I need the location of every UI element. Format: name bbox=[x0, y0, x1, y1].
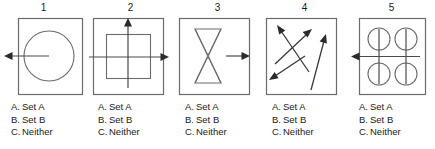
option-label-b-1: Set B bbox=[22, 114, 45, 125]
option-b-5[interactable]: B.Set B bbox=[359, 114, 435, 127]
option-label-c-3: Neither bbox=[196, 126, 227, 137]
option-letter-b-3: B. bbox=[185, 114, 196, 127]
option-a-1[interactable]: A.Set A bbox=[11, 101, 87, 114]
option-label-b-2: Set B bbox=[109, 114, 132, 125]
option-letter-c-3: C. bbox=[185, 126, 196, 139]
panel-1: 1 A.Set A B.Set B C.Neither bbox=[0, 0, 87, 149]
panel-4: 4 A.Set A B.Set B C.Neither bbox=[261, 0, 348, 149]
option-label-b-4: Set B bbox=[283, 114, 306, 125]
panel-number-5: 5 bbox=[348, 0, 435, 16]
option-c-1[interactable]: C.Neither bbox=[11, 126, 87, 139]
option-label-b-3: Set B bbox=[196, 114, 219, 125]
option-letter-b-1: B. bbox=[11, 114, 22, 127]
option-label-a-2: Set A bbox=[109, 101, 132, 112]
option-label-a-4: Set A bbox=[283, 101, 306, 112]
panel-2: 2 A.Set A B.Set B C.Neither bbox=[87, 0, 174, 149]
option-label-c-2: Neither bbox=[109, 126, 140, 137]
option-letter-c-5: C. bbox=[359, 126, 370, 139]
options-list-5: A.Set A B.Set B C.Neither bbox=[348, 101, 435, 139]
options-list-3: A.Set A B.Set B C.Neither bbox=[174, 101, 261, 139]
option-a-4[interactable]: A.Set A bbox=[272, 101, 348, 114]
panel-figure-2 bbox=[87, 16, 174, 98]
three-crossing-diagonal-arrows-icon bbox=[261, 16, 348, 98]
figure-panel-row: 1 A.Set A B.Set B C.Neither 2 bbox=[0, 0, 435, 149]
panel-number-2: 2 bbox=[87, 0, 174, 16]
panel-number-1: 1 bbox=[0, 0, 87, 16]
option-a-2[interactable]: A.Set A bbox=[98, 101, 174, 114]
option-a-3[interactable]: A.Set A bbox=[185, 101, 261, 114]
four-circles-with-left-arrow-icon bbox=[348, 16, 435, 98]
option-b-4[interactable]: B.Set B bbox=[272, 114, 348, 127]
option-letter-c-1: C. bbox=[11, 126, 22, 139]
option-letter-b-2: B. bbox=[98, 114, 109, 127]
option-a-5[interactable]: A.Set A bbox=[359, 101, 435, 114]
options-list-1: A.Set A B.Set B C.Neither bbox=[0, 101, 87, 139]
option-c-2[interactable]: C.Neither bbox=[98, 126, 174, 139]
option-label-c-1: Neither bbox=[22, 126, 53, 137]
option-letter-a-1: A. bbox=[11, 101, 22, 114]
option-label-a-3: Set A bbox=[196, 101, 219, 112]
option-letter-c-4: C. bbox=[272, 126, 283, 139]
panel-5: 5 A.Set A B.Set B C.Neither bbox=[348, 0, 435, 149]
circle-with-left-arrow-icon bbox=[0, 16, 87, 98]
option-label-a-1: Set A bbox=[22, 101, 45, 112]
options-list-4: A.Set A B.Set B C.Neither bbox=[261, 101, 348, 139]
option-label-c-4: Neither bbox=[283, 126, 314, 137]
option-letter-a-3: A. bbox=[185, 101, 196, 114]
options-list-2: A.Set A B.Set B C.Neither bbox=[87, 101, 174, 139]
option-c-3[interactable]: C.Neither bbox=[185, 126, 261, 139]
option-letter-c-2: C. bbox=[98, 126, 109, 139]
square-with-up-and-right-arrows-icon bbox=[87, 16, 174, 98]
panel-figure-5 bbox=[348, 16, 435, 98]
panel-figure-1 bbox=[0, 16, 87, 98]
option-letter-a-4: A. bbox=[272, 101, 283, 114]
option-b-2[interactable]: B.Set B bbox=[98, 114, 174, 127]
option-letter-a-5: A. bbox=[359, 101, 370, 114]
option-label-a-5: Set A bbox=[370, 101, 393, 112]
hourglass-with-right-arrow-icon bbox=[174, 16, 261, 98]
panel-number-3: 3 bbox=[174, 0, 261, 16]
option-letter-a-2: A. bbox=[98, 101, 109, 114]
option-c-5[interactable]: C.Neither bbox=[359, 126, 435, 139]
option-letter-b-5: B. bbox=[359, 114, 370, 127]
panel-figure-3 bbox=[174, 16, 261, 98]
option-b-3[interactable]: B.Set B bbox=[185, 114, 261, 127]
option-label-b-5: Set B bbox=[370, 114, 393, 125]
option-c-4[interactable]: C.Neither bbox=[272, 126, 348, 139]
panel-figure-4 bbox=[261, 16, 348, 98]
panel-3: 3 A.Set A B.Set B C.Neither bbox=[174, 0, 261, 149]
option-letter-b-4: B. bbox=[272, 114, 283, 127]
panel-number-4: 4 bbox=[261, 0, 348, 16]
option-label-c-5: Neither bbox=[370, 126, 401, 137]
option-b-1[interactable]: B.Set B bbox=[11, 114, 87, 127]
